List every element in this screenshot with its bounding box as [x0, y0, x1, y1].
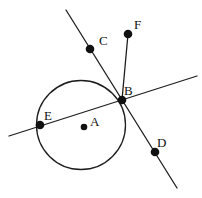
point-label-D: D — [157, 135, 166, 150]
point-label-B: B — [124, 83, 133, 98]
geometry-figure: ABCDEF — [0, 0, 202, 198]
point-dot-F — [124, 30, 133, 39]
diagram-canvas: ABCDEF — [0, 0, 202, 198]
point-dot-C — [86, 45, 95, 54]
point-label-A: A — [90, 114, 100, 129]
point-label-F: F — [134, 17, 141, 32]
point-label-C: C — [99, 33, 108, 48]
figure-background — [0, 0, 202, 198]
point-dot-A — [81, 124, 88, 131]
point-label-E: E — [44, 108, 52, 123]
point-dot-E — [36, 121, 45, 130]
